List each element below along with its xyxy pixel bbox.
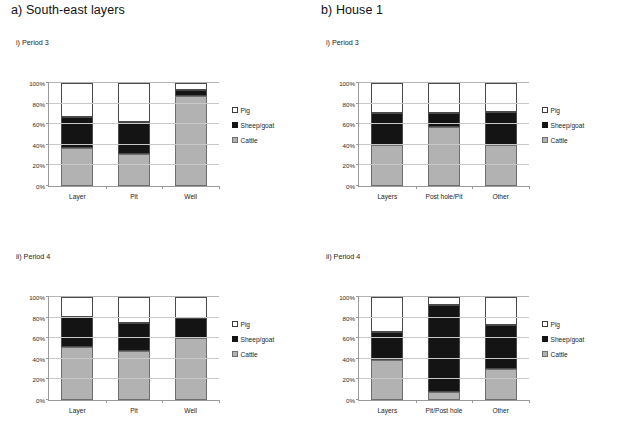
bar-segment-sheep-goat xyxy=(61,317,93,348)
stacked-bar xyxy=(61,297,93,400)
x-axis-tick-mark xyxy=(529,400,530,403)
bar-segment-cattle xyxy=(428,127,460,186)
x-axis-tick-mark xyxy=(416,186,417,189)
y-axis-tick-mark xyxy=(356,399,359,400)
bar-segment-sheep-goat xyxy=(118,122,150,154)
gridline xyxy=(49,378,219,379)
stacked-bar xyxy=(371,297,403,400)
y-axis-tick-mark xyxy=(46,296,49,297)
stacked-bar xyxy=(485,297,517,400)
gridline xyxy=(49,82,219,83)
bar-segment-cattle xyxy=(485,145,517,186)
y-axis-tick-label: 60% xyxy=(343,335,355,342)
y-axis-tick-mark xyxy=(46,358,49,359)
bar-segment-sheep-goat xyxy=(485,325,517,369)
bars-layer xyxy=(359,297,529,400)
legend-item: Pig xyxy=(542,104,584,116)
bar-segment-cattle xyxy=(428,392,460,400)
stacked-bar xyxy=(428,83,460,186)
bar-segment-pig xyxy=(428,83,460,113)
y-axis-tick-mark xyxy=(46,185,49,186)
legend-item-label: Cattle xyxy=(241,351,258,358)
y-axis-tick-label: 0% xyxy=(36,397,45,404)
y-axis-tick-label: 0% xyxy=(36,183,45,190)
y-axis-tick-label: 80% xyxy=(343,100,355,107)
y-axis-tick-mark xyxy=(46,82,49,83)
y-axis-tick-label: 0% xyxy=(346,183,355,190)
legend-item: Pig xyxy=(232,318,274,330)
gridline xyxy=(359,358,529,359)
y-axis-tick-mark xyxy=(46,317,49,318)
legend-item: Pig xyxy=(232,104,274,116)
bar-segment-sheep-goat xyxy=(175,90,207,96)
y-axis-tick-label: 100% xyxy=(29,80,45,87)
y-axis-tick-label: 80% xyxy=(343,314,355,321)
gridline xyxy=(359,82,529,83)
sheepgoat-swatch-icon xyxy=(542,336,548,342)
bar-segment-pig xyxy=(485,83,517,112)
legend-item: Sheep/goat xyxy=(542,333,584,345)
bar-segment-sheep-goat xyxy=(371,332,403,360)
x-axis-tick-mark xyxy=(106,186,107,189)
bar-segment-cattle xyxy=(371,360,403,400)
bar-segment-pig xyxy=(175,297,207,318)
cattle-swatch-icon xyxy=(232,351,238,357)
y-axis-tick-mark xyxy=(46,337,49,338)
legend-item: Cattle xyxy=(542,348,584,360)
sheepgoat-swatch-icon xyxy=(542,122,548,128)
cattle-swatch-icon xyxy=(232,137,238,143)
bar-segment-pig xyxy=(61,297,93,317)
sub-title-b-period-3: i) Period 3 xyxy=(326,38,359,47)
plot-area: 0%20%40%60%80%100%LayerPitWell xyxy=(48,83,219,187)
legend-item-label: Pig xyxy=(241,321,251,328)
y-axis-tick-mark xyxy=(46,103,49,104)
bar-segment-cattle xyxy=(61,347,93,400)
bar-segment-cattle xyxy=(485,369,517,400)
sub-title-a-period-3: i) Period 3 xyxy=(16,38,49,47)
y-axis-tick-mark xyxy=(46,123,49,124)
x-axis-tick-label: Layer xyxy=(69,407,86,414)
bar-segment-cattle xyxy=(61,148,93,186)
legend-item-label: Cattle xyxy=(551,351,568,358)
stacked-bar xyxy=(118,297,150,400)
bar-segment-cattle xyxy=(371,145,403,186)
legend-item: Cattle xyxy=(542,134,584,146)
bar-segment-sheep-goat xyxy=(175,318,207,339)
y-axis-tick-mark xyxy=(356,378,359,379)
sheepgoat-swatch-icon xyxy=(232,336,238,342)
legend-item-label: Cattle xyxy=(241,137,258,144)
panel-house-1-period-3: b) House 1 i) Period 3 0%20%40%60%80%100… xyxy=(310,0,619,213)
bar-segment-pig xyxy=(175,83,207,90)
bar-segment-pig xyxy=(371,83,403,113)
bar-segment-pig xyxy=(118,297,150,323)
section-title-a: a) South-east layers xyxy=(11,3,125,17)
y-axis-tick-label: 40% xyxy=(343,355,355,362)
plot-area: 0%20%40%60%80%100%LayersPit/Post holeOth… xyxy=(358,297,529,401)
bar-segment-pig xyxy=(61,83,93,117)
gridline xyxy=(359,103,529,104)
bar-segment-sheep-goat xyxy=(485,112,517,145)
pig-swatch-icon xyxy=(232,321,238,327)
legend: PigSheep/goatCattle xyxy=(232,318,274,363)
legend-item: Pig xyxy=(542,318,584,330)
legend-item-label: Pig xyxy=(551,107,561,114)
x-axis-tick-label: Layers xyxy=(377,407,397,414)
stacked-bar xyxy=(61,83,93,186)
pig-swatch-icon xyxy=(542,107,548,113)
legend-item: Cattle xyxy=(232,134,274,146)
bar-segment-cattle xyxy=(118,154,150,186)
cattle-swatch-icon xyxy=(542,351,548,357)
bar-segment-cattle xyxy=(175,338,207,400)
gridline xyxy=(49,317,219,318)
bar-segment-cattle xyxy=(175,96,207,186)
y-axis-tick-mark xyxy=(46,399,49,400)
y-axis-tick-label: 60% xyxy=(343,121,355,128)
stacked-bar xyxy=(175,83,207,186)
gridline xyxy=(49,103,219,104)
legend-item-label: Pig xyxy=(241,107,251,114)
gridline xyxy=(49,358,219,359)
y-axis-tick-mark xyxy=(356,144,359,145)
sheepgoat-swatch-icon xyxy=(232,122,238,128)
pig-swatch-icon xyxy=(542,321,548,327)
x-axis-tick-mark xyxy=(529,186,530,189)
